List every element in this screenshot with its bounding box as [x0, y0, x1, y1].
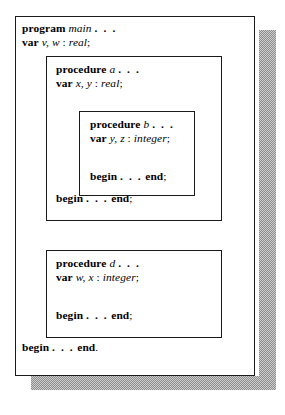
procedure-d-name: d	[109, 257, 115, 269]
procedure-d-keyword: procedure	[56, 257, 106, 269]
procedure-d-header-ellipsis: . . .	[118, 257, 140, 269]
procedure-a-var-keyword: var	[56, 77, 73, 89]
procedure-b-begin-end-line: begin . . . end;	[90, 170, 167, 184]
program-header-block: program main . . . var v, w : real;	[22, 22, 117, 49]
procedure-d-begin-end-line: begin . . . end;	[56, 309, 133, 323]
program-var-keyword: var	[22, 36, 39, 48]
procedure-d-var-keyword: var	[56, 271, 73, 283]
procedure-b-keyword: procedure	[90, 118, 140, 130]
procedure-b-header-block: procedure b . . . var y, z : integer;	[90, 118, 174, 145]
procedure-b-var-names: y, z	[110, 132, 125, 144]
procedure-b-var-separator: :	[125, 132, 134, 144]
program-var-type: real	[69, 36, 87, 48]
procedure-b-var-terminator: ;	[167, 132, 170, 144]
procedure-b-begin-keyword: begin	[90, 170, 117, 182]
procedure-b-header-ellipsis: . . .	[152, 118, 174, 130]
scope-box-program-main: program main . . . var v, w : real; proc…	[15, 16, 255, 376]
program-body-terminator: .	[95, 341, 98, 353]
procedure-a-keyword: procedure	[56, 63, 106, 75]
procedure-a-var-names: x, y	[76, 77, 92, 89]
procedure-d-body-terminator: ;	[129, 309, 132, 321]
procedure-b-end-keyword: end	[145, 170, 163, 182]
procedure-b-var-type: integer	[134, 132, 167, 144]
program-body-block: begin . . . end.	[22, 341, 98, 355]
procedure-b-body-block: begin . . . end;	[90, 170, 167, 184]
procedure-d-var-separator: :	[94, 271, 103, 283]
procedure-a-var-line: var x, y : real;	[56, 77, 140, 91]
program-end-keyword: end	[77, 341, 95, 353]
procedure-b-body-terminator: ;	[163, 170, 166, 182]
scope-box-procedure-d: procedure d . . . var w, x : integer; be…	[46, 250, 222, 338]
scope-box-procedure-b: procedure b . . . var y, z : integer; be…	[79, 111, 195, 196]
procedure-a-var-separator: :	[92, 77, 101, 89]
procedure-a-header-block: procedure a . . . var x, y : real;	[56, 63, 140, 90]
drop-shadow-bottom	[31, 376, 276, 390]
program-var-separator: :	[60, 36, 69, 48]
program-var-terminator: ;	[87, 36, 90, 48]
procedure-d-var-type: integer	[103, 271, 136, 283]
procedure-b-var-keyword: var	[90, 132, 107, 144]
procedure-a-header-line: procedure a . . .	[56, 63, 140, 77]
program-begin-keyword: begin	[22, 341, 49, 353]
procedure-d-header-block: procedure d . . . var w, x : integer;	[56, 257, 140, 284]
procedure-b-var-line: var y, z : integer;	[90, 132, 174, 146]
procedure-d-header-line: procedure d . . .	[56, 257, 140, 271]
scope-box-procedure-a: procedure a . . . var x, y : real; proce…	[46, 56, 222, 221]
scope-diagram-figure: program main . . . var v, w : real; proc…	[0, 0, 285, 415]
program-header-ellipsis: . . .	[95, 22, 117, 34]
procedure-d-begin-keyword: begin	[56, 309, 83, 321]
procedure-a-header-ellipsis: . . .	[118, 63, 140, 75]
procedure-d-body-ellipsis: . . .	[86, 309, 108, 321]
drop-shadow-right	[259, 30, 276, 390]
procedure-d-var-names: w, x	[76, 271, 94, 283]
procedure-d-var-terminator: ;	[136, 271, 139, 283]
program-begin-end-line: begin . . . end.	[22, 341, 98, 355]
procedure-b-body-ellipsis: . . .	[120, 170, 142, 182]
procedure-b-header-line: procedure b . . .	[90, 118, 174, 132]
program-keyword: program	[22, 22, 66, 34]
procedure-d-var-line: var w, x : integer;	[56, 271, 140, 285]
procedure-a-var-type: real	[101, 77, 119, 89]
procedure-a-var-terminator: ;	[119, 77, 122, 89]
program-var-line: var v, w : real;	[22, 36, 117, 50]
program-header-line: program main . . .	[22, 22, 117, 36]
procedure-d-end-keyword: end	[111, 309, 129, 321]
program-body-ellipsis: . . .	[52, 341, 74, 353]
program-name: main	[68, 22, 91, 34]
procedure-b-name: b	[143, 118, 149, 130]
procedure-d-body-block: begin . . . end;	[56, 309, 133, 323]
procedure-a-name: a	[109, 63, 115, 75]
program-var-names: v, w	[42, 36, 60, 48]
